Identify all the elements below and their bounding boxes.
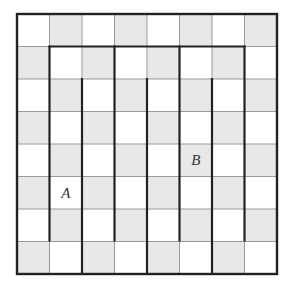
grid-cell <box>147 14 180 47</box>
grid-cell <box>115 242 148 275</box>
grid-cell <box>212 112 245 145</box>
grid-cell <box>17 112 50 145</box>
grid-cell <box>147 177 180 210</box>
grid-cell <box>212 47 245 80</box>
grid-cell <box>50 144 83 177</box>
grid-cell <box>212 209 245 242</box>
grid-cell <box>245 177 278 210</box>
grid-cell <box>212 242 245 275</box>
grid-cell <box>50 112 83 145</box>
grid-cell <box>17 47 50 80</box>
grid-cell <box>17 79 50 112</box>
grid-cell <box>180 14 213 47</box>
grid-cell <box>82 177 115 210</box>
grid-cell <box>17 242 50 275</box>
cell-label-a: A <box>60 185 71 201</box>
grid-cell <box>180 209 213 242</box>
grid-cell <box>245 79 278 112</box>
grid-cell <box>115 144 148 177</box>
grid-cell <box>82 79 115 112</box>
grid-cell <box>50 79 83 112</box>
grid-cell <box>82 209 115 242</box>
grid-cell <box>147 242 180 275</box>
grid-cell <box>212 144 245 177</box>
grid-cell <box>180 112 213 145</box>
grid-cell <box>180 79 213 112</box>
grid-cell <box>82 242 115 275</box>
grid-cell <box>245 144 278 177</box>
grid-cell <box>180 177 213 210</box>
grid-cell <box>82 144 115 177</box>
cell-label-b: B <box>191 152 200 168</box>
grid-diagram: AB <box>0 0 291 288</box>
grid-cell <box>245 242 278 275</box>
grid-cell <box>115 177 148 210</box>
grid-cell <box>50 47 83 80</box>
grid-cell <box>115 47 148 80</box>
grid-cell <box>17 177 50 210</box>
grid-cell <box>212 79 245 112</box>
grid-cell <box>212 177 245 210</box>
grid-cell <box>82 112 115 145</box>
grid-cell <box>180 47 213 80</box>
grid-cell <box>17 209 50 242</box>
grid-cell <box>82 47 115 80</box>
grid-cell <box>212 14 245 47</box>
grid-cell <box>245 209 278 242</box>
grid-cell <box>147 79 180 112</box>
grid-cell <box>115 79 148 112</box>
grid-cell <box>245 112 278 145</box>
grid-cell <box>115 14 148 47</box>
grid-cell <box>115 209 148 242</box>
grid-cell <box>82 14 115 47</box>
grid-cell <box>50 209 83 242</box>
grid-cell <box>50 14 83 47</box>
grid-cell <box>147 209 180 242</box>
grid-cell <box>147 47 180 80</box>
grid-cell <box>17 144 50 177</box>
grid-cell <box>147 144 180 177</box>
grid-cell <box>245 14 278 47</box>
grid-cell <box>50 242 83 275</box>
grid-cell <box>115 112 148 145</box>
grid-cell <box>245 47 278 80</box>
grid-cell <box>17 14 50 47</box>
grid-cell <box>180 242 213 275</box>
grid-cell <box>147 112 180 145</box>
